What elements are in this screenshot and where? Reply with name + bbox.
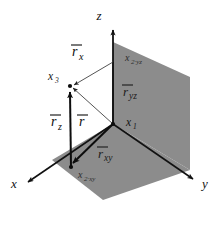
- vector-diagram-canvas: x y z x 1 x 3 x 2·yz x 2·xy r x: [0, 0, 221, 231]
- point-label-x2yz-sub: 2·yz: [131, 58, 142, 66]
- point-x1-marker: [111, 122, 115, 126]
- vector-label-rz-base: r: [51, 114, 57, 129]
- vector-label-rxy-sub: xy: [103, 153, 113, 163]
- point-label-x2yz-base: x: [124, 52, 130, 63]
- vector-rx-line: [74, 62, 113, 85]
- vector-label-rx: r x: [71, 44, 84, 62]
- point-label-x3-base: x: [47, 70, 54, 82]
- vector-diagram-figure: x y z x 1 x 3 x 2·yz x 2·xy r x: [0, 0, 221, 231]
- point-label-x2xy-base: x: [77, 169, 83, 180]
- vector-label-rz-sub: z: [57, 121, 62, 132]
- vector-label-rz: r z: [50, 114, 62, 132]
- axis-label-x: x: [10, 176, 17, 191]
- vector-label-rx-sub: x: [78, 51, 84, 62]
- point-label-x3: x 3: [47, 70, 59, 85]
- axis-label-z: z: [95, 8, 101, 23]
- point-label-x3-sub: 3: [54, 76, 59, 85]
- axis-label-y: y: [200, 176, 208, 191]
- point-label-x1-base: x: [125, 116, 132, 128]
- point-label-x1-sub: 1: [133, 122, 137, 131]
- vector-label-r: r: [77, 114, 88, 129]
- point-x2xy-marker: [69, 165, 73, 169]
- vector-label-rx-base: r: [72, 44, 78, 59]
- vector-label-r-base: r: [79, 114, 85, 129]
- vector-label-ryz-sub: yz: [128, 91, 137, 101]
- point-x3-marker: [68, 84, 72, 88]
- point-label-x2xy-sub: 2·xy: [84, 175, 96, 183]
- vector-rz-line: [70, 92, 71, 167]
